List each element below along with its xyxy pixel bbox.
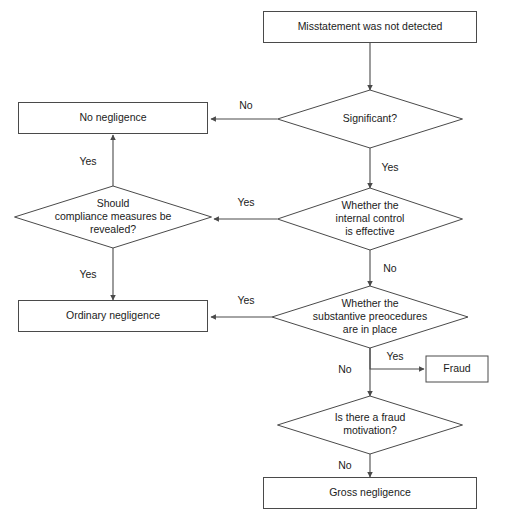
edge-label-e-substantive-yes-fraud: Yes (386, 350, 403, 362)
edge-label-e-compliance-yes-down: Yes (79, 268, 96, 280)
node-label-significant: Significant? (343, 112, 397, 124)
node-label-internal-control: internal control (336, 212, 405, 224)
node-label-substantive: Whether the (341, 297, 398, 309)
node-label-internal-control: Whether the (341, 199, 398, 211)
node-label-fraud: Fraud (443, 362, 471, 374)
node-compliance[interactable]: Shouldcompliance measures berevealed? (15, 186, 212, 248)
node-label-internal-control: is effective (345, 225, 395, 237)
node-label-fraud-motivation: Is there a fraud (335, 411, 406, 423)
edge-label-e-control-yes: Yes (237, 196, 254, 208)
node-misstatement[interactable]: Misstatement was not detected (264, 12, 477, 43)
node-gross-negligence[interactable]: Gross negligence (264, 478, 477, 509)
node-ordinary-negligence[interactable]: Ordinary negligence (19, 301, 208, 332)
node-significant[interactable]: Significant? (278, 90, 463, 148)
edge-label-e-control-no: No (383, 262, 397, 274)
node-label-compliance: revealed? (90, 223, 136, 235)
node-fraud[interactable]: Fraud (426, 356, 488, 382)
node-label-misstatement: Misstatement was not detected (298, 20, 443, 32)
node-no-negligence[interactable]: No negligence (19, 103, 208, 134)
node-label-gross-negligence: Gross negligence (329, 486, 411, 498)
node-label-substantive: substantive preocedures (313, 310, 427, 322)
edge-label-e-significant-yes: Yes (381, 161, 398, 173)
node-internal-control[interactable]: Whether theinternal controlis effective (278, 188, 463, 250)
node-label-substantive: are in place (343, 323, 397, 335)
flowchart-canvas: NoYesYesYesYesNoYesYesNoNo Misstatement … (0, 0, 508, 528)
nodes-layer: Misstatement was not detectedNo negligen… (15, 12, 489, 509)
edge-label-e-motivation-no: No (338, 459, 352, 471)
edge-label-e-substantive-yes-left: Yes (237, 294, 254, 306)
node-label-ordinary-negligence: Ordinary negligence (66, 309, 160, 321)
edge-label-e-significant-no: No (239, 99, 253, 111)
edge-label-e-compliance-yes-up: Yes (79, 155, 96, 167)
node-label-compliance: compliance measures be (55, 210, 172, 222)
flowchart-svg: NoYesYesYesYesNoYesYesNoNo Misstatement … (0, 0, 508, 528)
node-label-no-negligence: No negligence (79, 111, 146, 123)
edge-label-e-substantive-no: No (338, 363, 352, 375)
node-substantive[interactable]: Whether thesubstantive preoceduresare in… (272, 286, 468, 348)
node-fraud-motivation[interactable]: Is there a fraudmotivation? (278, 396, 463, 454)
node-label-fraud-motivation: motivation? (343, 424, 397, 436)
node-label-compliance: Should (97, 197, 130, 209)
